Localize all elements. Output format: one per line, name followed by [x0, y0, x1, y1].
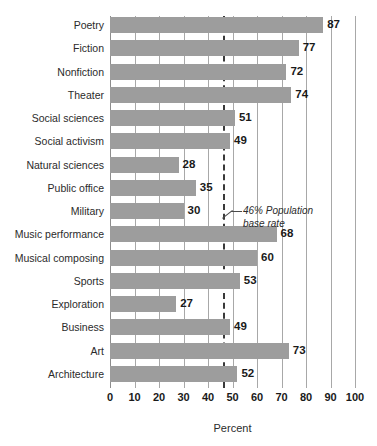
- bar-row: 74: [110, 86, 355, 109]
- bar: [110, 319, 230, 335]
- bar-value-label: 77: [299, 39, 316, 55]
- bar-row: 72: [110, 63, 355, 86]
- x-tick-label-100: 100: [346, 391, 364, 403]
- base-rate-annotation: 46% Population base rate: [243, 205, 313, 230]
- bar-value-label: 53: [240, 272, 257, 288]
- category-label-social-activism: Social activism: [0, 133, 104, 149]
- bar: [110, 17, 323, 33]
- bar: [110, 180, 196, 196]
- bar-value-label: 73: [289, 342, 306, 358]
- bar: [110, 157, 179, 173]
- category-label-exploration: Exploration: [0, 296, 104, 312]
- bar-value-label: 74: [291, 86, 308, 102]
- bar-row: 49: [110, 132, 355, 155]
- category-label-fiction: Fiction: [0, 40, 104, 56]
- category-label-business: Business: [0, 319, 104, 335]
- bar: [110, 343, 289, 359]
- bar-row: 87: [110, 16, 355, 39]
- category-label-poetry: Poetry: [0, 17, 104, 33]
- leader-horizontal-segment: [231, 211, 242, 212]
- bar-value-label: 28: [179, 156, 196, 172]
- x-axis: 0102030405060708090100: [110, 388, 355, 410]
- bar-row: 49: [110, 318, 355, 341]
- bar: [110, 110, 235, 126]
- x-tick-label-0: 0: [107, 391, 113, 403]
- base-rate-annotation-line-1: 46% Population: [243, 205, 313, 218]
- bar-row: 27: [110, 295, 355, 318]
- bar: [110, 40, 299, 56]
- bar-row: 53: [110, 272, 355, 295]
- bar: [110, 87, 291, 103]
- bar-value-label: 87: [323, 16, 340, 32]
- x-tick-label-40: 40: [202, 391, 214, 403]
- bar-value-label: 49: [230, 132, 247, 148]
- bar-row: 51: [110, 109, 355, 132]
- x-tick-label-70: 70: [275, 391, 287, 403]
- gridline-100: [355, 16, 356, 388]
- x-tick-label-20: 20: [153, 391, 165, 403]
- bar-rows: 87777274514928353068605327497352: [110, 16, 355, 388]
- x-tick-label-30: 30: [177, 391, 189, 403]
- bar: [110, 64, 286, 80]
- category-label-music-performance: Music performance: [0, 226, 104, 242]
- bar: [110, 203, 184, 219]
- bar: [110, 366, 237, 382]
- bar-value-label: 35: [196, 179, 213, 195]
- category-label-public-office: Public office: [0, 180, 104, 196]
- bar-value-label: 72: [286, 63, 303, 79]
- bar-value-label: 49: [230, 318, 247, 334]
- bar-chart: PoetryFictionNonfictionTheaterSocial sci…: [0, 0, 377, 446]
- annotation-leader-line: [222, 218, 242, 230]
- bar-row: 60: [110, 249, 355, 272]
- bar-value-label: 27: [176, 295, 193, 311]
- bar-row: 52: [110, 365, 355, 388]
- category-label-theater: Theater: [0, 87, 104, 103]
- bar-row: 35: [110, 179, 355, 202]
- category-label-military: Military: [0, 203, 104, 219]
- category-label-nonfiction: Nonfiction: [0, 64, 104, 80]
- bar-value-label: 60: [257, 249, 274, 265]
- category-label-architecture: Architecture: [0, 366, 104, 382]
- x-tick-label-10: 10: [128, 391, 140, 403]
- x-tick-label-90: 90: [324, 391, 336, 403]
- x-tick-label-50: 50: [226, 391, 238, 403]
- bar: [110, 250, 257, 266]
- bar: [110, 273, 240, 289]
- category-label-musical-composing: Musical composing: [0, 250, 104, 266]
- bar-row: 28: [110, 156, 355, 179]
- x-tick-label-80: 80: [300, 391, 312, 403]
- bar-row: 77: [110, 39, 355, 62]
- bar: [110, 296, 176, 312]
- x-axis-title: Percent: [110, 422, 355, 434]
- bar-row: 73: [110, 342, 355, 365]
- bar-value-label: 51: [235, 109, 252, 125]
- category-axis-labels: PoetryFictionNonfictionTheaterSocial sci…: [0, 16, 104, 388]
- x-tick-label-60: 60: [251, 391, 263, 403]
- category-label-art: Art: [0, 343, 104, 359]
- bar-value-label: 52: [237, 365, 254, 381]
- plot-area: 87777274514928353068605327497352: [110, 16, 355, 388]
- bar: [110, 133, 230, 149]
- category-label-sports: Sports: [0, 273, 104, 289]
- base-rate-annotation-line-2: base rate: [243, 218, 313, 231]
- category-label-natural-sciences: Natural sciences: [0, 157, 104, 173]
- bar-value-label: 30: [184, 202, 201, 218]
- category-label-social-sciences: Social sciences: [0, 110, 104, 126]
